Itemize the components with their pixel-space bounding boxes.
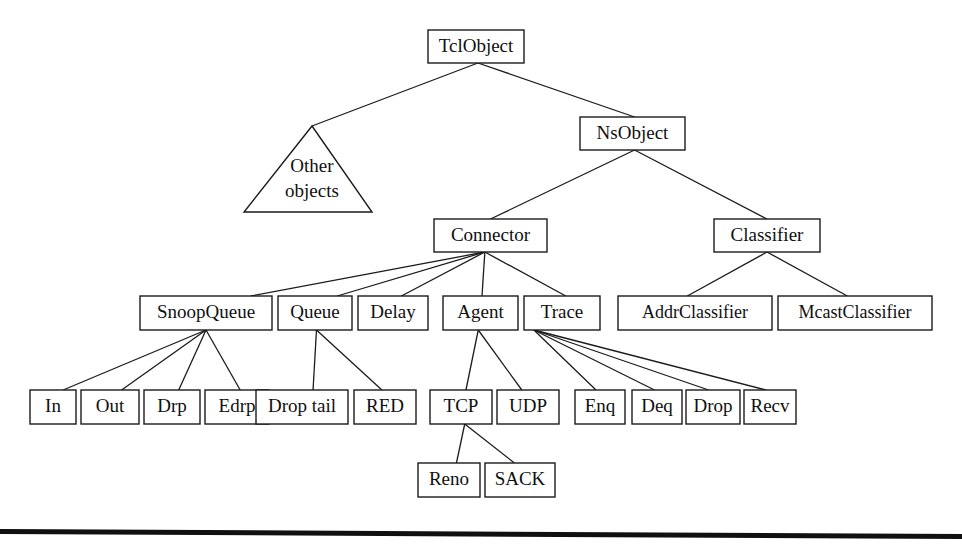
footer-rule-bar: [0, 529, 962, 539]
node-label-other-objects-line2: objects: [285, 180, 339, 201]
edge-trace-to-recv: [534, 330, 766, 390]
node-mcastclassifier[interactable]: McastClassifier: [778, 296, 932, 330]
node-label-connector: Connector: [451, 224, 531, 245]
edge-tclobject-to-nsobject: [478, 63, 635, 117]
node-label-snoopqueue: SnoopQueue: [157, 301, 255, 322]
node-label-drp: Drp: [157, 395, 187, 416]
node-red[interactable]: RED: [354, 390, 416, 424]
edge-agent-to-tcp: [466, 330, 478, 390]
node-connector[interactable]: Connector: [434, 219, 547, 252]
edge-tcp-to-sack: [465, 424, 515, 463]
node-addrclassifier[interactable]: AddrClassifier: [618, 296, 772, 330]
node-label-edrp: Edrp: [219, 395, 256, 416]
node-label-droptail: Drop tail: [268, 395, 336, 416]
node-label-trace: Trace: [541, 301, 584, 322]
edge-nsobject-to-connector: [491, 150, 635, 219]
edge-trace-to-deq: [534, 330, 655, 390]
node-label-tclobject: TclObject: [439, 35, 514, 56]
node-label-red: RED: [366, 395, 404, 416]
footer-rule: [0, 529, 962, 539]
node-enq[interactable]: Enq: [575, 390, 625, 424]
node-recv[interactable]: Recv: [744, 390, 796, 424]
edge-classifier-to-mcastclassifier: [767, 252, 847, 296]
edge-connector-to-trace: [485, 252, 566, 296]
edge-queue-to-red: [316, 330, 381, 390]
edge-queue-to-droptail: [313, 330, 316, 390]
node-trace[interactable]: Trace: [524, 296, 600, 330]
edge-connector-to-queue: [337, 252, 485, 296]
edge-connector-to-agent: [482, 252, 485, 296]
node-label-sack: SACK: [495, 468, 546, 489]
class-hierarchy-diagram: TclObjectNsObjectOtherobjectsConnectorCl…: [0, 0, 962, 552]
node-label-addrclassifier: AddrClassifier: [642, 302, 748, 322]
edge-connector-to-snoopqueue: [251, 252, 485, 296]
node-deq[interactable]: Deq: [632, 390, 682, 424]
node-label-other-objects-line1: Other: [290, 155, 334, 176]
node-nsobject[interactable]: NsObject: [580, 117, 685, 150]
edge-classifier-to-addrclassifier: [687, 252, 767, 296]
node-tclobject[interactable]: TclObject: [428, 30, 524, 63]
node-drp[interactable]: Drp: [144, 390, 200, 424]
node-label-tcp: TCP: [444, 395, 479, 416]
edge-tcp-to-reno: [456, 424, 464, 463]
edge-agent-to-udp: [478, 330, 522, 390]
node-label-udp: UDP: [509, 395, 547, 416]
node-udp[interactable]: UDP: [497, 390, 559, 424]
node-label-agent: Agent: [457, 301, 504, 322]
node-label-in: In: [45, 395, 61, 416]
node-label-out: Out: [96, 395, 125, 416]
node-label-nsobject: NsObject: [597, 122, 669, 143]
edge-connector-to-delay: [401, 252, 484, 296]
node-layer: TclObjectNsObjectOtherobjectsConnectorCl…: [30, 30, 932, 497]
node-label-delay: Delay: [370, 301, 416, 322]
edge-tclobject-to-other_objects: [312, 63, 478, 126]
node-label-deq: Deq: [641, 395, 673, 416]
node-snoopqueue[interactable]: SnoopQueue: [140, 296, 272, 330]
node-tcp[interactable]: TCP: [430, 390, 492, 424]
edge-trace-to-drop: [534, 330, 709, 390]
node-out[interactable]: Out: [81, 390, 139, 424]
node-reno[interactable]: Reno: [418, 463, 480, 497]
node-label-reno: Reno: [429, 468, 469, 489]
node-label-enq: Enq: [585, 395, 616, 416]
node-sack[interactable]: SACK: [485, 463, 555, 497]
edge-nsobject-to-classifier: [635, 150, 767, 219]
node-label-queue: Queue: [290, 301, 340, 322]
node-drop[interactable]: Drop: [686, 390, 740, 424]
node-label-recv: Recv: [750, 395, 790, 416]
node-other_objects[interactable]: Otherobjects: [244, 126, 372, 212]
node-delay[interactable]: Delay: [358, 296, 428, 330]
node-queue[interactable]: Queue: [278, 296, 352, 330]
node-label-classifier: Classifier: [731, 224, 804, 245]
node-droptail[interactable]: Drop tail: [256, 390, 348, 424]
node-label-drop: Drop: [693, 395, 732, 416]
node-classifier[interactable]: Classifier: [714, 219, 820, 252]
node-label-mcastclassifier: McastClassifier: [799, 302, 912, 322]
hierarchy-svg-canvas: TclObjectNsObjectOtherobjectsConnectorCl…: [0, 0, 962, 552]
node-agent[interactable]: Agent: [443, 296, 518, 330]
node-in[interactable]: In: [30, 390, 76, 424]
edge-trace-to-enq: [534, 330, 596, 390]
edge-snoopqueue-to-edrp: [206, 330, 240, 390]
